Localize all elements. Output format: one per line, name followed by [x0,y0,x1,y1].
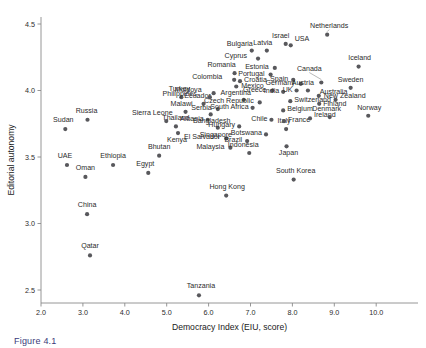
data-point[interactable] [174,124,178,128]
data-point[interactable] [88,253,92,257]
data-point[interactable] [282,119,286,123]
data-point[interactable] [232,71,236,75]
data-point[interactable] [183,110,187,114]
data-point-label: Belgium [287,105,313,113]
y-tick-label: 4.5 [25,20,35,29]
data-point-label: Sudan [53,116,74,124]
data-point-label: Canada [297,65,322,73]
data-point-label: Indonesia [228,141,259,149]
data-point[interactable] [237,124,241,128]
data-point[interactable] [238,79,242,83]
data-point[interactable] [366,114,370,118]
data-point[interactable] [284,144,288,148]
x-tick-label: 9.0 [329,308,339,317]
data-point-label: Estonia [245,63,269,71]
data-point[interactable] [319,80,323,84]
data-point[interactable] [111,163,115,167]
data-point[interactable] [289,43,293,47]
data-point[interactable] [281,108,285,112]
x-tick-label: 4.0 [120,308,130,317]
data-point-label: Norway [357,104,381,112]
data-point-label: Sweden [338,76,364,84]
data-point[interactable] [306,88,310,92]
y-tick-label: 3.0 [25,219,35,228]
data-point-label: Czech Republic [204,97,254,105]
data-point-label: Russia [76,107,98,115]
data-point-label: Qatar [81,242,99,250]
data-point[interactable] [308,116,312,120]
data-point[interactable] [265,49,269,53]
data-point-label: Cyprus [225,52,248,60]
data-point-label: Ethiopia [100,152,126,160]
data-point[interactable] [328,115,332,119]
data-point[interactable] [273,66,277,70]
data-point-label: Germany [266,79,296,87]
data-point[interactable] [325,33,329,37]
x-tick-label: 10.0 [369,308,383,317]
data-point-label: Chile [251,115,267,123]
data-point-label: Malawi [171,100,193,108]
data-point-label: South Korea [276,167,315,175]
data-point[interactable] [146,171,150,175]
data-point-label: China [78,201,97,209]
data-point[interactable] [250,106,254,110]
data-point[interactable] [292,178,296,182]
y-tick-label: 3.5 [25,153,35,162]
figure-caption: Figure 4.1 [14,336,57,347]
x-tick-label: 6.0 [204,308,214,317]
data-point-label: Australia [320,88,348,96]
data-point[interactable] [250,49,254,53]
data-point[interactable] [65,163,69,167]
scatter-plot: 2.03.04.05.06.07.08.09.010.02.53.03.54.0… [0,0,426,348]
data-point-label: Botswana [231,129,262,137]
figure-container: 2.03.04.05.06.07.08.09.010.02.53.03.54.0… [0,0,426,348]
data-point-label: Colombia [192,73,222,81]
y-tick-label: 2.5 [25,286,35,295]
x-tick-label: 5.0 [162,308,172,317]
data-point[interactable] [232,78,236,82]
data-point[interactable] [284,127,288,131]
data-point[interactable] [224,193,228,197]
data-point[interactable] [256,56,260,60]
data-point[interactable] [284,42,288,46]
data-point-label: Iceland [348,54,371,62]
data-point[interactable] [83,175,87,179]
data-point-label: Hong Kong [209,183,245,191]
data-point-label: USA [295,35,310,43]
data-point[interactable] [234,84,238,88]
data-point-label: Oman [76,164,95,172]
data-point[interactable] [294,88,298,92]
data-point[interactable] [317,102,321,106]
data-point[interactable] [212,91,216,95]
data-point[interactable] [85,118,89,122]
label-leader-line [327,30,329,32]
data-point[interactable] [333,98,337,102]
x-tick-label: 7.0 [246,308,256,317]
data-point[interactable] [85,212,89,216]
data-point[interactable] [209,112,213,116]
x-tick-label: 2.0 [36,308,46,317]
data-point[interactable] [197,293,201,297]
data-point[interactable] [157,154,161,158]
data-point[interactable] [176,131,180,135]
data-point[interactable] [288,99,292,103]
data-point[interactable] [264,132,268,136]
y-axis-title: Editorial autonomy [6,124,16,196]
data-point-label: Malaysia [196,143,224,151]
data-point-label: El Salvador [184,133,221,141]
data-point[interactable] [247,151,251,155]
data-point-label: Bulgaria [227,40,253,48]
data-point[interactable] [63,127,67,131]
data-point-layer: SudanUAEOmanRussiaChinaQatarEthiopiaEgyp… [53,22,382,298]
y-tick-label: 4.0 [25,86,35,95]
data-point[interactable] [357,64,361,68]
data-point-label: Latvia [253,39,272,47]
data-point[interactable] [349,86,353,90]
data-point-label: Japan [279,149,298,157]
data-point-label: Tanzania [187,282,215,290]
x-tick-label: 8.0 [287,308,297,317]
data-point[interactable] [269,118,273,122]
data-point[interactable] [258,100,262,104]
data-point-label: Austria [292,79,314,87]
data-point-label: Hungary [208,121,235,129]
